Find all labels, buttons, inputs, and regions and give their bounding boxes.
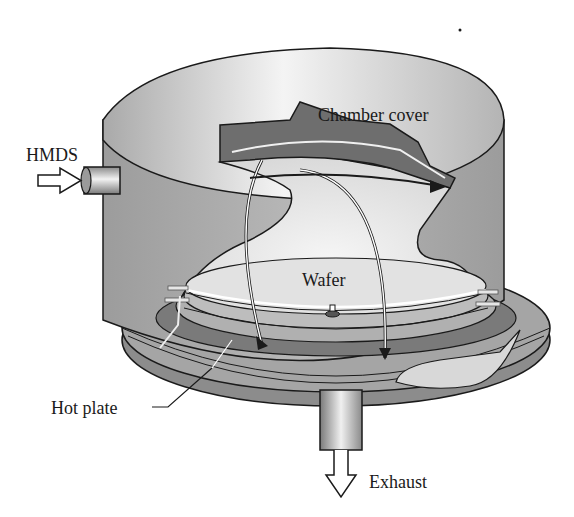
hmds-arrow-icon <box>38 168 81 193</box>
hmds-chamber-diagram: Chamber cover HMDS Wafer Hot plate Exhau… <box>0 0 574 517</box>
chamber-cover-label: Chamber cover <box>318 106 428 124</box>
hot-plate-label: Hot plate <box>51 399 117 417</box>
wafer-label: Wafer <box>302 271 346 289</box>
exhaust-arrow-icon <box>326 450 356 497</box>
hmds-inlet-pipe <box>38 167 120 194</box>
chamber-illustration <box>0 0 574 517</box>
exhaust-label: Exhaust <box>369 473 427 491</box>
hmds-label: HMDS <box>26 146 78 164</box>
exhaust-pipe <box>320 390 362 497</box>
speck <box>459 29 462 32</box>
